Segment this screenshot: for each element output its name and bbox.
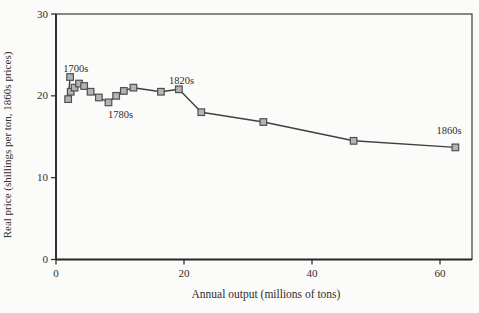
y-tick-label: 10	[37, 171, 49, 183]
x-axis: 0204060	[53, 260, 446, 280]
data-point-marker	[130, 84, 137, 91]
data-point-marker	[96, 94, 103, 101]
data-point-marker	[113, 93, 120, 100]
x-axis-title: Annual output (millions of tons)	[192, 288, 341, 301]
x-tick-label: 0	[53, 267, 59, 279]
data-point-marker	[452, 144, 459, 151]
data-point-marker	[81, 83, 88, 90]
y-tick-label: 0	[43, 253, 49, 265]
data-point-marker	[87, 88, 94, 95]
x-tick-label: 60	[435, 267, 447, 279]
plot-frame	[56, 14, 472, 260]
data-point-marker	[198, 109, 205, 116]
price-output-figure: 02040600102030Annual output (millions of…	[0, 0, 479, 313]
data-point-marker	[67, 74, 74, 81]
x-tick-label: 20	[179, 267, 191, 279]
data-point-marker	[158, 88, 165, 95]
data-point-marker	[105, 99, 112, 106]
data-point-marker	[65, 96, 72, 103]
y-tick-label: 30	[37, 8, 49, 20]
decade-annotation-1820s: 1820s	[169, 75, 194, 86]
y-axis: 0102030	[37, 8, 56, 266]
x-tick-label: 40	[307, 267, 319, 279]
y-tick-label: 20	[37, 89, 49, 101]
data-point-marker	[121, 88, 128, 95]
data-point-marker	[260, 119, 267, 126]
decade-annotation-1700s: 1700s	[63, 63, 88, 74]
chart-canvas: 02040600102030Annual output (millions of…	[0, 0, 479, 313]
y-axis-title: Real price (shillings per ton, 1860s pri…	[1, 51, 14, 238]
decade-annotation-1860s: 1860s	[436, 125, 461, 136]
decade-annotation-1780s: 1780s	[108, 109, 133, 120]
data-point-marker	[350, 138, 357, 145]
data-point-marker	[176, 86, 183, 93]
